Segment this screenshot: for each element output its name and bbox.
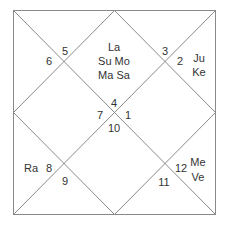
planet-label-top-center-1: La (108, 41, 121, 53)
sign-number-house-right-center: 1 (125, 109, 131, 121)
planet-label-right-lower-1: Me (190, 156, 205, 168)
sign-number-house-bottom-center: 10 (108, 122, 120, 134)
sign-number-house-top-center: 4 (111, 97, 117, 109)
planet-label-right-lower-2: Ve (192, 171, 205, 183)
sign-number-house-top-left: 5 (62, 45, 68, 57)
sign-number-house-top-right: 3 (162, 45, 168, 57)
sign-number-house-right-lower: 12 (175, 162, 187, 174)
sign-number-house-left-center: 7 (97, 109, 103, 121)
sign-number-house-right-upper: 2 (177, 55, 183, 67)
sign-number-house-bottom-right: 11 (158, 176, 169, 188)
planet-label-top-center-3: Ma Sa (98, 69, 131, 81)
planet-label-left-lower-1: Ra (24, 162, 39, 174)
sign-number-house-left-upper: 6 (46, 55, 52, 67)
sign-number-house-left-lower: 8 (46, 162, 52, 174)
planet-label-right-upper-1: Ju (193, 52, 205, 64)
planet-label-top-center-2: Su Mo (98, 55, 130, 67)
kundli-chart: 4 5 6 7 8 9 10 11 12 1 2 3 La Su Mo Ma S… (0, 0, 226, 232)
planet-label-right-upper-2: Ke (192, 66, 205, 78)
sign-number-house-bottom-left: 9 (62, 175, 68, 187)
